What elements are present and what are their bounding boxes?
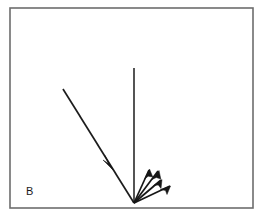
panel-label: B: [26, 185, 33, 197]
ray-diagram-figure: B: [0, 0, 262, 218]
ray-diagram-canvas: B: [0, 0, 262, 218]
figure-frame: [10, 8, 253, 208]
